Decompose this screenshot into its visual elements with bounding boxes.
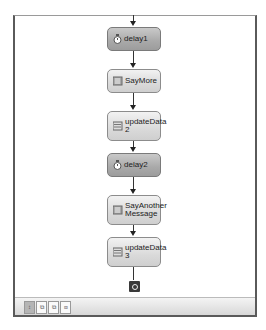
activity-label: updateData 2 bbox=[125, 118, 159, 134]
arrow-down-icon bbox=[130, 63, 136, 68]
arrow-down-icon bbox=[130, 147, 136, 152]
activity-updatedata3[interactable]: updateData 3 bbox=[107, 237, 161, 267]
connector bbox=[133, 267, 134, 280]
cancel-handler-view-button[interactable]: ⧉ bbox=[36, 301, 47, 314]
activity-saymore[interactable]: SayMore bbox=[107, 69, 161, 93]
activity-label: delay2 bbox=[124, 161, 148, 169]
activity-updatedata2[interactable]: updateData 2 bbox=[107, 111, 161, 141]
connector bbox=[133, 51, 134, 63]
data-update-icon bbox=[113, 121, 123, 131]
fault-handler-icon: ⧉ bbox=[52, 304, 56, 310]
code-activity-icon bbox=[113, 205, 123, 215]
activity-label: delay1 bbox=[124, 35, 148, 43]
activity-label: SayAnother Message bbox=[125, 202, 161, 218]
workflow-end-icon bbox=[129, 281, 140, 292]
arrow-down-icon bbox=[130, 231, 136, 236]
workflow-view-button[interactable]: ↕ bbox=[24, 301, 35, 314]
data-update-icon bbox=[113, 247, 123, 257]
code-activity-icon bbox=[113, 76, 123, 86]
activity-delay2[interactable]: delay2 bbox=[107, 153, 161, 177]
activity-delay1[interactable]: delay1 bbox=[107, 27, 161, 51]
arrow-down-icon bbox=[130, 21, 136, 26]
connector bbox=[133, 177, 134, 189]
clock-icon bbox=[113, 160, 122, 170]
sequence-icon: ↕ bbox=[28, 304, 31, 310]
fault-handler-view-button[interactable]: ⧉ bbox=[48, 301, 59, 314]
activity-sayanothermessage[interactable]: SayAnother Message bbox=[107, 195, 161, 225]
event-handler-view-button[interactable]: ⧈ bbox=[60, 301, 71, 314]
clock-icon bbox=[113, 34, 122, 44]
arrow-down-icon bbox=[130, 189, 136, 194]
event-handler-icon: ⧈ bbox=[64, 304, 68, 310]
cancel-handler-icon: ⧉ bbox=[40, 304, 44, 310]
arrow-down-icon bbox=[130, 105, 136, 110]
activity-label: updateData 3 bbox=[125, 244, 159, 260]
view-toolbar: ↕ ⧉ ⧉ ⧈ bbox=[15, 297, 255, 315]
activity-label: SayMore bbox=[125, 77, 157, 85]
connector bbox=[133, 93, 134, 105]
